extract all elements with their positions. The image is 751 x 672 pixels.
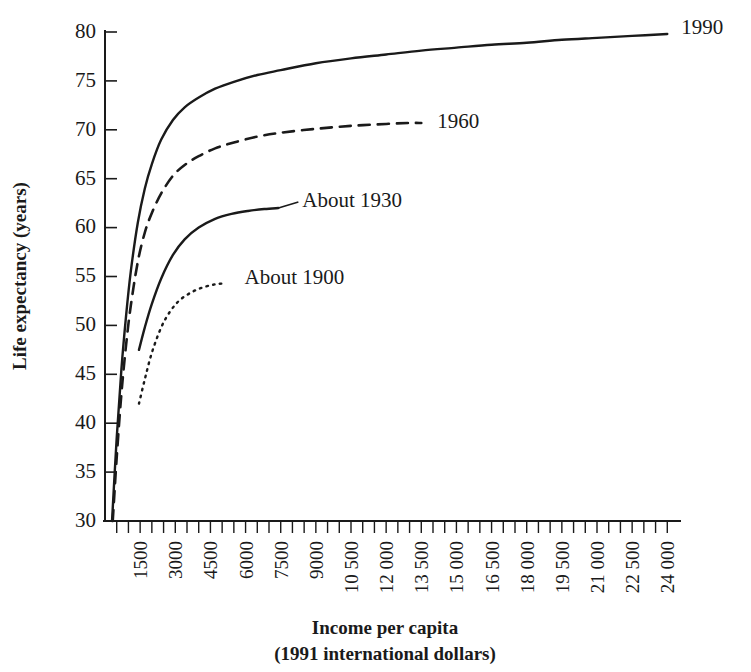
y-tick-label: 60	[75, 214, 96, 238]
x-tick-label: 22 500	[622, 541, 643, 593]
x-tick-label: 6000	[236, 541, 257, 579]
x-tick-label: 1500	[130, 541, 151, 579]
x-axis-title: Income per capita	[312, 617, 459, 638]
x-tick-label: 4500	[200, 541, 221, 579]
series-leader-line	[278, 202, 298, 208]
y-tick-label: 65	[75, 166, 96, 190]
series-curve-1960	[113, 123, 422, 521]
x-tick-label: 16 500	[482, 541, 503, 593]
x-tick-label: 18 000	[517, 541, 538, 593]
x-tick-label: 10 500	[341, 541, 362, 593]
series-label-1960: 1960	[437, 109, 479, 133]
y-axis-group: 3035404550556065707580 Life expectancy (…	[9, 19, 117, 532]
life-expectancy-income-chart: 3035404550556065707580 Life expectancy (…	[0, 0, 751, 672]
y-tick-label: 35	[75, 459, 96, 483]
x-tick-label: 19 500	[552, 541, 573, 593]
series-label-about-1930: About 1930	[302, 188, 402, 212]
y-tick-label: 50	[75, 312, 96, 336]
y-axis-tick-labels: 3035404550556065707580	[75, 19, 96, 532]
x-tick-label: 24 000	[657, 541, 678, 593]
x-tick-label: 15 000	[446, 541, 467, 593]
y-tick-label: 75	[75, 68, 96, 92]
series-curve-1990	[112, 34, 667, 521]
series-labels: 19901960About 1930About 1900	[244, 15, 723, 289]
x-axis-tick-labels: 15003000450060007500900010 50012 00013 5…	[130, 541, 678, 593]
y-tick-label: 45	[75, 361, 96, 385]
chart-container: 3035404550556065707580 Life expectancy (…	[0, 0, 751, 672]
x-tick-label: 3000	[165, 541, 186, 579]
y-tick-label: 30	[75, 508, 96, 532]
x-axis-group: 15003000450060007500900010 50012 00013 5…	[104, 521, 680, 665]
series-label-about-1900: About 1900	[244, 265, 344, 289]
y-tick-label: 80	[75, 19, 96, 43]
y-axis-title: Life expectancy (years)	[9, 182, 31, 370]
y-tick-label: 55	[75, 263, 96, 287]
y-tick-label: 70	[75, 117, 96, 141]
x-tick-label: 12 000	[376, 541, 397, 593]
x-tick-label: 7500	[271, 541, 292, 579]
x-axis-subtitle: (1991 international dollars)	[274, 643, 496, 665]
series-label-1990: 1990	[681, 15, 723, 39]
series-curves	[112, 34, 667, 521]
x-tick-label: 21 000	[587, 541, 608, 593]
y-tick-label: 40	[75, 410, 96, 434]
x-tick-label: 9000	[306, 541, 327, 579]
x-axis-ticks	[117, 521, 668, 533]
x-tick-label: 13 500	[411, 541, 432, 593]
